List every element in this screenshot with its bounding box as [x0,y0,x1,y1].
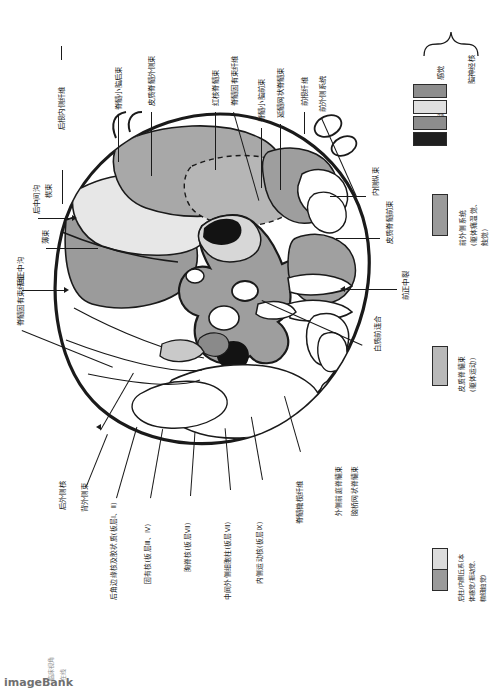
label-anterior-root-fibers: 前根纤维 [301,77,309,106]
label-spinal-olivary-fibers: 脊髓橄榄纤维 [296,481,304,524]
legend-swatch-corticospinal-tract [432,346,448,386]
legend-text-corticospinal-1: 皮质脊髓束 [459,356,466,392]
leader-gracile [46,248,98,249]
label-marginal-nucleus-substantia-gelatinosa: 后角边缘核及胶状质(板层Ⅰ、Ⅱ) [111,502,118,600]
legend-text-posterior-column-1: 后柱/内侧丘系(本 [458,554,465,602]
label-spinal-interfascicular-fibers: 脊髓固有束纤维 [231,56,239,106]
watermark-logo: imageBank [4,671,73,690]
cranial-swatch-motor-b [413,132,447,146]
label-medial-motor-nucleus: 内侧运动核(板层Ⅸ) [257,521,264,584]
reticulospinal-strip [318,333,347,372]
leader-lateral-corticospinal [151,112,152,176]
label-rubrospinal-tract: 红核脊髓束 [212,70,220,106]
leader-anterior-spinocerebellar [261,128,262,188]
label-anterior-white-commissure: 白质前连合 [374,316,382,352]
arrow-posterior-intermediate-sulcus [72,215,77,221]
label-posterior-intermediate-sulcus: 后中间沟 [33,185,41,214]
figure-canvas: 后根内侧纤维 脊髓小脑后束 皮质脊髓外侧束 红核脊髓束 脊髓固有束纤维 脊髓小脑… [0,0,500,695]
intermediolateral-cell-column-shape [186,269,204,283]
label-spinal-proprius-fibers-left: 脊髓固有束纤维 [17,276,25,326]
cranial-legend-sensory-label: 感觉 [437,66,445,80]
cranial-swatch-sensory-a [413,84,447,98]
cranial-swatch-motor-a [413,116,447,130]
label-anterior-spinocerebellar-tract: 脊髓小脑前束 [258,79,266,122]
central-canal [232,281,258,301]
legend-text-anterolateral-2: (躯体痛温觉、 [471,200,478,246]
leader-medullary-reticulospinal [280,124,281,190]
leader-posterior-median-sulcus [22,290,66,291]
label-cuneate-fasciculus: 楔束 [45,184,53,198]
arrow-posterolateral-nucleus [96,424,101,430]
legend-text-posterior-column-3: 精细触觉) [480,575,487,602]
label-pontine-reticulospinal-tract: 脑桥网状脊髓束 [352,466,359,516]
cranial-swatch-sensory-b [413,100,447,114]
legend-text-anterolateral-1: 前外侧系统 [460,210,467,246]
label-thoracic-nucleus: 胸脊核(板层Ⅶ) [185,522,192,572]
label-anterolateral-system-top: 前外侧系统 [319,76,327,112]
leader-rubrospinal [215,112,216,170]
label-dorsolateral-fasciculus: 背外侧束 [81,483,89,512]
label-anterior-corticospinal-tract: 皮质脊髓前束 [386,201,394,244]
label-posterior-root-medial-fibers: 后根内侧纤维 [58,87,66,130]
leader-posterior-intermediate-sulcus [38,218,74,219]
watermark: 临床视角 在线 imageBank [2,639,80,693]
label-lateral-vestibulospinal-tract: 外侧前庭脊髓束 [336,466,343,516]
leader-posterior-root-medial-fibers [61,46,62,60]
leader-cuneate [62,170,63,204]
arrow-anterior-median-fissure [340,286,345,292]
arrow-posterior-median-sulcus [64,287,69,293]
label-anterior-median-fissure: 前正中裂 [402,271,410,300]
leader-posterior-spinocerebellar [118,116,119,162]
leader-anterior-median-fissure [345,289,397,290]
leader-anterior-corticospinal [336,238,380,239]
label-intermediolateral-cell-column: 中间外侧细胞柱(板层Ⅶ) [225,522,232,600]
label-posterolateral-nucleus: 后外侧核 [59,481,67,510]
leader-mlf [330,196,366,197]
label-medial-longitudinal-fasciculus: 内侧纵束 [372,167,380,196]
label-gracile-fasciculus: 薄束 [42,230,50,244]
legend-text-posterior-column-2: 体感觉/振动觉、 [469,556,476,602]
small-funiculus-oval [321,380,347,400]
legend-text-anterolateral-3: 触觉) [482,229,489,246]
legend-swatch-posterior-column-bottom [432,569,448,591]
label-proper-nucleus: 固有核(板层Ⅲ、Ⅳ) [145,524,152,584]
label-lateral-corticospinal-tract: 皮质脊髓外侧束 [148,56,156,106]
spinal-cord-illustration [52,108,382,457]
label-posterior-spinocerebellar-tract: 脊髓小脑后束 [115,67,123,110]
legend-swatch-posterior-column-top [432,548,448,570]
legend-text-corticospinal-2: (躯体运动) [470,357,477,392]
watermark-brand: imageBank [4,676,73,689]
leader-anterior-root-fibers [304,112,305,134]
label-medullary-reticulospinal-tract: 延髓网状脊髓束 [277,68,285,118]
cranial-legend-group-label: 脑神经核 [468,55,476,84]
legend-swatch-anterolateral-system [432,194,448,236]
thoracic-nucleus-shape [209,306,239,330]
